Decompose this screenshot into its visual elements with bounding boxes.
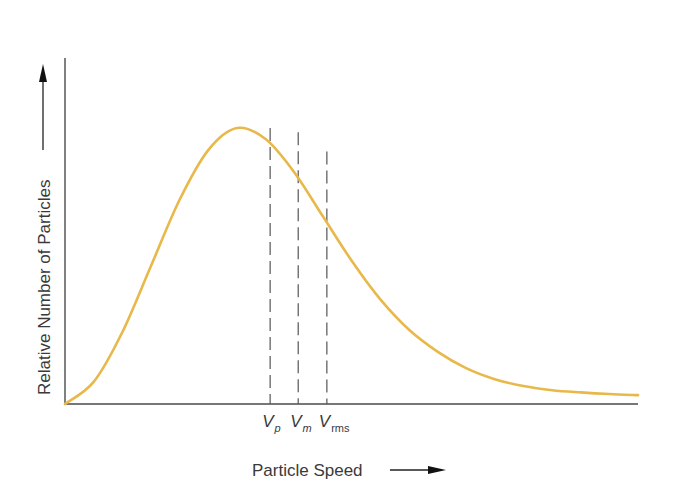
y-axis-label: Relative Number of Particles: [35, 180, 54, 395]
distribution-curve: [65, 128, 638, 404]
marker-labels: VpVmVrms: [262, 412, 350, 434]
marker-label-vm: Vm: [290, 412, 312, 434]
marker-label-vp: Vp: [262, 412, 280, 434]
chart: VpVmVrms Relative Number of Particles Pa…: [0, 0, 679, 501]
marker-lines: [270, 128, 327, 404]
marker-subscript: p: [273, 422, 280, 434]
x-axis-label: Particle Speed: [252, 461, 363, 480]
marker-subscript: m: [303, 422, 312, 434]
y-axis-label-arrow-head-icon: [39, 64, 47, 82]
marker-subscript: rms: [331, 422, 350, 434]
marker-label-vrms: Vrms: [319, 412, 350, 434]
curve-group: [65, 128, 638, 404]
x-axis-label-arrow-head-icon: [428, 466, 446, 474]
axes: [65, 58, 638, 404]
